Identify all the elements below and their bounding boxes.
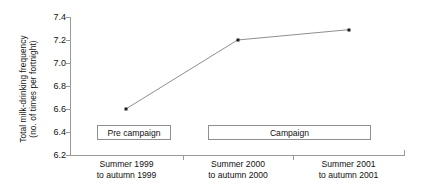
x-category-label-0: Summer 1999 to autumn 1999 bbox=[70, 159, 183, 182]
y-tick-label: 7.0 bbox=[53, 58, 66, 68]
annotation-pre-campaign: Pre campaign bbox=[97, 125, 171, 140]
annotation-label: Pre campaign bbox=[107, 128, 160, 138]
y-tick-label: 6.4 bbox=[53, 127, 66, 137]
x-category-line-2: to autumn 2001 bbox=[293, 170, 404, 181]
y-tick-label: 6.2 bbox=[53, 150, 66, 160]
data-point-marker bbox=[236, 39, 239, 42]
x-axis-line bbox=[70, 155, 405, 156]
y-axis-title: Total milk-drinking frequency (no. of ti… bbox=[13, 12, 43, 167]
y-axis-title-line-1: Total milk-drinking frequency bbox=[17, 35, 27, 143]
x-category-line-1: Summer 1999 bbox=[70, 159, 183, 170]
x-category-label-1: Summer 2000 to autumn 2000 bbox=[183, 159, 293, 182]
y-tick-label: 6.6 bbox=[53, 104, 66, 114]
y-tick-label: 6.8 bbox=[53, 81, 66, 91]
x-category-label-2: Summer 2001 to autumn 2001 bbox=[293, 159, 404, 182]
series-polyline bbox=[126, 30, 349, 109]
x-category-line-2: to autumn 2000 bbox=[183, 170, 293, 181]
data-point-marker bbox=[124, 108, 127, 111]
y-tick-label: 7.4 bbox=[53, 12, 66, 22]
y-axis-title-line-2: (no. of times per fortnight) bbox=[28, 40, 38, 137]
x-category-line-1: Summer 2000 bbox=[183, 159, 293, 170]
annotation-campaign: Campaign bbox=[208, 125, 371, 140]
y-tick-label: 7.2 bbox=[53, 35, 66, 45]
data-point-marker bbox=[348, 28, 351, 31]
y-tick-mark bbox=[66, 155, 70, 156]
x-category-line-1: Summer 2001 bbox=[293, 159, 404, 170]
x-category-line-2: to autumn 1999 bbox=[70, 170, 183, 181]
plot-area: 7.4 7.2 7.0 6.8 6.6 6.4 6.2 bbox=[70, 17, 405, 155]
annotation-label: Campaign bbox=[270, 128, 309, 138]
line-chart: Total milk-drinking frequency (no. of ti… bbox=[0, 0, 422, 188]
